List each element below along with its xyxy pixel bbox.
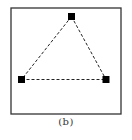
figure-caption: (b) [0,116,132,127]
node-bottom-right [103,76,110,83]
nodes-group [18,13,110,83]
figure-frame [11,8,121,114]
edge-top-to-bottom-right [72,17,107,80]
edges-group [22,17,107,80]
node-top [68,13,75,20]
edge-top-to-bottom-left [22,17,72,80]
node-bottom-left [18,76,25,83]
